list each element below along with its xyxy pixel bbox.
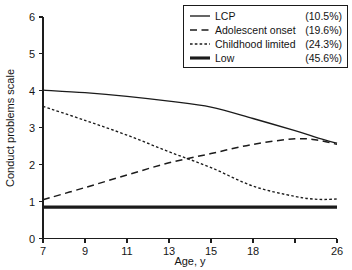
legend-percent: (10.5%) — [305, 10, 342, 23]
y-tick-label: 4 — [29, 85, 35, 97]
y-tick-label: 5 — [29, 48, 35, 60]
x-axis-ticks: 791113151826 — [40, 239, 343, 257]
legend-line-solid-icon — [189, 10, 211, 22]
y-axis-title: Conduct problems scale — [4, 69, 16, 187]
legend-item-lcp: LCP (10.5%) — [189, 9, 342, 23]
y-tick-label: 3 — [29, 122, 35, 134]
chart-legend: LCP (10.5%) Adolescent onset (19.6%) Chi… — [183, 5, 348, 68]
x-tick-label: 11 — [121, 245, 132, 257]
legend-line-thick-solid-icon — [189, 52, 211, 64]
legend-line-long-dash-icon — [189, 24, 211, 36]
legend-label: LCP — [215, 10, 305, 23]
x-tick-label: 9 — [82, 245, 88, 257]
legend-percent: (24.3%) — [305, 38, 342, 51]
y-axis-ticks: 0123456 — [29, 11, 43, 245]
legend-label: Low — [215, 52, 305, 65]
y-tick-label: 0 — [29, 233, 35, 245]
y-tick-label: 6 — [29, 11, 35, 23]
y-tick-label: 2 — [29, 159, 35, 171]
chart-series-group — [43, 90, 337, 207]
x-tick-label: 13 — [163, 245, 175, 257]
legend-item-low: Low (45.6%) — [189, 51, 342, 65]
legend-item-childhood-limited: Childhood limited (24.3%) — [189, 37, 342, 51]
x-tick-label: 15 — [205, 245, 217, 257]
legend-label: Childhood limited — [215, 38, 305, 51]
y-tick-label: 1 — [29, 196, 35, 208]
series-line-lcp — [43, 90, 337, 143]
legend-item-adolescent-onset: Adolescent onset (19.6%) — [189, 23, 342, 37]
legend-line-short-dash-icon — [189, 38, 211, 50]
legend-label: Adolescent onset — [215, 24, 305, 37]
x-tick-label: 18 — [247, 245, 259, 257]
legend-percent: (45.6%) — [305, 52, 342, 65]
x-tick-label: 7 — [40, 245, 46, 257]
series-line-adolescent-onset — [43, 139, 337, 200]
x-tick-label: 26 — [331, 245, 343, 257]
chart-figure: 0123456 791113151826 Age, y Conduct prob… — [0, 0, 352, 270]
legend-percent: (19.6%) — [305, 24, 342, 37]
x-axis-title: Age, y — [174, 255, 206, 267]
series-line-childhood-limited — [43, 106, 337, 199]
